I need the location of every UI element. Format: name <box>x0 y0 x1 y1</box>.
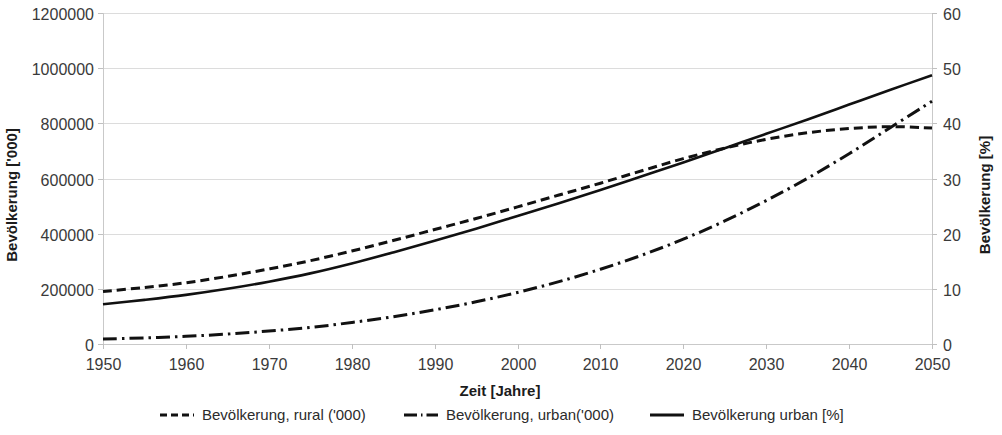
x-axis-tick-label: 1970 <box>252 356 288 373</box>
y-axis-tick-label: 800000 <box>41 116 94 133</box>
y2-axis-tick-label: 10 <box>943 282 961 299</box>
x-axis-tick-label: 1990 <box>418 356 454 373</box>
x-axis-tick-label: 2020 <box>666 356 702 373</box>
y-axis-tick-label: 0 <box>85 337 94 354</box>
x-axis-tick-label: 1950 <box>86 356 122 373</box>
population-line-chart: 020000040000060000080000010000001200000 … <box>0 0 1002 435</box>
x-axis-tick-label: 1980 <box>335 356 371 373</box>
x-axis-tick-label: 2010 <box>583 356 619 373</box>
legend-item-label: Bevölkerung, urban('000) <box>446 406 614 423</box>
legend-item-label: Bevölkerung, rural ('000) <box>202 406 366 423</box>
chart-legend: Bevölkerung, rural ('000)Bevölkerung, ur… <box>160 406 844 423</box>
y-axis-tick-label: 1000000 <box>32 61 94 78</box>
y-axis-tick-label: 200000 <box>41 282 94 299</box>
x-axis-tick-label: 2040 <box>832 356 868 373</box>
y2-axis-title: Bevölkerung [%] <box>976 136 993 254</box>
x-axis-tick-label: 1960 <box>169 356 205 373</box>
y-axis-tick-label: 1200000 <box>32 6 94 23</box>
y2-axis-tick-label: 50 <box>943 61 961 78</box>
y2-axis-tick-label: 40 <box>943 116 961 133</box>
y2-axis-tick-label: 20 <box>943 227 961 244</box>
y-axis-title: Bevölkerung ['000] <box>3 128 20 262</box>
x-axis-title: Zeit [Jahre] <box>460 382 541 399</box>
y2-axis-tick-label: 0 <box>943 337 952 354</box>
legend-item-label: Bevölkerung urban [%] <box>692 406 844 423</box>
x-axis-tick-label: 2030 <box>749 356 785 373</box>
y-axis-tick-label: 600000 <box>41 172 94 189</box>
y-axis-tick-label: 400000 <box>41 227 94 244</box>
x-axis-tick-label: 2050 <box>915 356 951 373</box>
chart-container: 020000040000060000080000010000001200000 … <box>0 0 1002 435</box>
x-axis-tick-label: 2000 <box>501 356 537 373</box>
y2-axis-tick-label: 60 <box>943 6 961 23</box>
y2-axis-tick-label: 30 <box>943 172 961 189</box>
